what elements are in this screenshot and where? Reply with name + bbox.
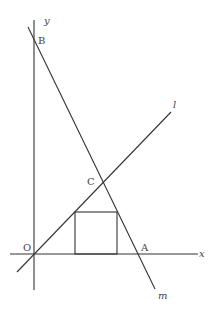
- line-m-label: m: [158, 290, 167, 301]
- line-m: [28, 27, 155, 289]
- point-a-label: A: [140, 242, 149, 253]
- geometry-diagram: y x O B C A l m: [0, 0, 216, 319]
- x-axis-label: x: [199, 248, 205, 259]
- point-b-label: B: [38, 35, 45, 46]
- line-l-label: l: [173, 99, 176, 110]
- origin-label: O: [23, 242, 31, 253]
- point-c-label: C: [87, 176, 95, 187]
- square: [75, 212, 117, 254]
- y-axis-label: y: [43, 15, 50, 26]
